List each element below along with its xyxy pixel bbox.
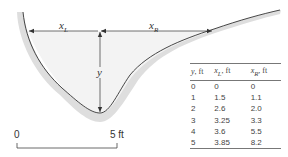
table-row: 000 — [190, 80, 281, 92]
table-row: 22.62.0 — [190, 103, 281, 114]
cell-y: 2 — [190, 103, 214, 114]
cell-y: 0 — [190, 80, 214, 92]
cell-xR: 5.5 — [251, 126, 281, 137]
xR-label-sub: R — [154, 26, 158, 34]
table-header-row: y, ft xL, ft xR, ft — [190, 64, 281, 81]
cell-y: 4 — [190, 126, 214, 137]
cell-xR: 2.0 — [251, 103, 281, 114]
cell-xL: 0 — [214, 80, 250, 92]
xR-label: xR — [149, 20, 158, 34]
cell-xL: 1.5 — [214, 92, 250, 103]
scale-start-label: 0 — [14, 130, 20, 140]
xL-label: xL — [59, 20, 68, 34]
cell-xL: 3.6 — [214, 126, 250, 137]
table-row: 11.51.1 — [190, 92, 281, 103]
header-xR-unit: , ft — [258, 66, 267, 75]
cell-xR: 0 — [251, 80, 281, 92]
cell-xL: 2.6 — [214, 103, 250, 114]
table-row: 33.253.3 — [190, 114, 281, 125]
header-xL: xL, ft — [214, 64, 250, 81]
depth-label: y — [97, 67, 102, 78]
depth-width-table: y, ft xL, ft xR, ft 000 11.51.1 22.62.0 … — [190, 63, 281, 149]
cell-xR: 8.2 — [251, 137, 281, 149]
header-y-unit: , ft — [195, 67, 204, 76]
scale-bar — [17, 143, 117, 148]
cell-xL: 3.25 — [214, 114, 250, 125]
header-xL-unit: , ft — [222, 66, 231, 75]
header-xR: xR, ft — [251, 64, 281, 81]
cell-xR: 1.1 — [251, 92, 281, 103]
cell-y: 1 — [190, 92, 214, 103]
header-y: y, ft — [190, 64, 214, 81]
cell-xL: 3.85 — [214, 137, 250, 149]
cell-xR: 3.3 — [251, 114, 281, 125]
cell-y: 3 — [190, 114, 214, 125]
table-row: 53.858.2 — [190, 137, 281, 149]
table-row: 43.65.5 — [190, 126, 281, 137]
scale-end-label: 5 ft — [110, 130, 124, 140]
xL-label-sub: L — [64, 26, 68, 34]
cell-y: 5 — [190, 137, 214, 149]
